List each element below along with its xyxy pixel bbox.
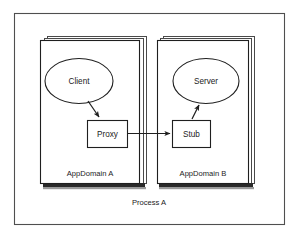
appdomain-b-shadow-soft: [159, 187, 254, 189]
server-label: Server: [194, 77, 218, 86]
node-server: Server: [173, 59, 239, 104]
node-stub: Stub: [173, 121, 211, 148]
appdomain-a-label: AppDomain A: [67, 169, 114, 178]
client-label: Client: [69, 77, 91, 86]
process-label: Process A: [132, 198, 167, 207]
diagram-canvas: AppDomain A AppDomain B Client Proxy: [0, 0, 298, 239]
proxy-label: Proxy: [97, 130, 119, 139]
process-appdomain-diagram: AppDomain A AppDomain B Client Proxy: [0, 0, 298, 239]
appdomain-a-container: AppDomain A: [41, 37, 147, 190]
appdomain-a-shadow-soft: [43, 187, 146, 189]
stub-label: Stub: [183, 130, 200, 139]
appdomain-b-label: AppDomain B: [180, 169, 227, 178]
node-proxy: Proxy: [88, 121, 128, 148]
node-client: Client: [45, 59, 113, 104]
